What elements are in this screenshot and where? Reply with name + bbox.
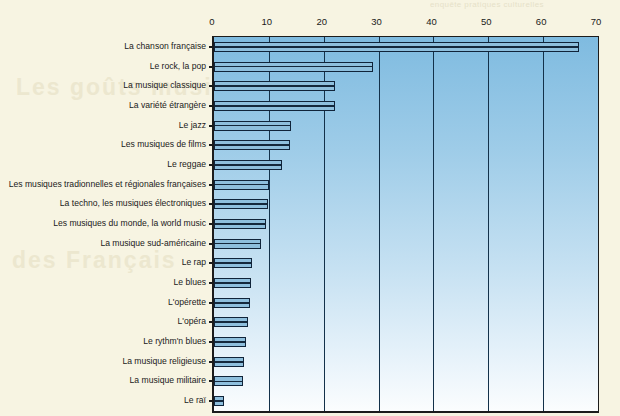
bar xyxy=(214,258,252,268)
category-axis-tick xyxy=(209,243,214,245)
bar xyxy=(214,199,268,209)
cropped-header-text: enquête pratiques culturelles xyxy=(430,0,610,9)
bar xyxy=(214,101,335,111)
category-axis-tick xyxy=(209,105,214,107)
category-label: Le rythm'n blues xyxy=(143,336,206,346)
bar xyxy=(214,376,243,386)
bar xyxy=(214,140,290,150)
category-axis-tick xyxy=(209,85,214,87)
x-axis-tick-label: 20 xyxy=(316,16,327,27)
category-label: La musique classique xyxy=(123,80,206,90)
bar xyxy=(214,357,244,367)
category-label: Le rock, la pop xyxy=(150,61,206,71)
bar xyxy=(214,81,335,91)
bar xyxy=(214,121,291,131)
bar xyxy=(214,219,266,229)
plot-area xyxy=(212,36,599,413)
bar xyxy=(214,278,251,288)
category-label: La musique sud-américaine xyxy=(100,238,206,248)
category-axis-tick xyxy=(209,262,214,264)
gridline xyxy=(488,37,489,411)
bar xyxy=(214,239,261,249)
gridline xyxy=(433,37,434,411)
category-axis-tick xyxy=(209,144,214,146)
bar xyxy=(214,396,224,406)
category-axis-tick xyxy=(209,223,214,225)
category-label: La musique religieuse xyxy=(122,356,206,366)
category-label: L'opéra xyxy=(178,316,206,326)
chart-page: enquête pratiques culturelles Les goûts … xyxy=(0,0,620,416)
bar xyxy=(214,298,250,308)
category-label: La musique militaire xyxy=(130,375,206,385)
category-label: Le jazz xyxy=(179,120,206,130)
category-axis-tick xyxy=(209,321,214,323)
category-label: Le blues xyxy=(174,277,207,287)
category-label: La techno, les musiques électroniques xyxy=(60,198,206,208)
category-label: Les musiques tradionnelles et régionales… xyxy=(9,179,206,189)
bar xyxy=(214,317,248,327)
category-axis-tick xyxy=(209,66,214,68)
category-label: Le raï xyxy=(184,395,206,405)
gridline xyxy=(324,37,325,411)
category-axis-tick xyxy=(209,341,214,343)
category-axis-tick xyxy=(209,125,214,127)
category-axis-tick xyxy=(209,184,214,186)
category-axis-tick xyxy=(209,203,214,205)
category-axis-tick xyxy=(209,380,214,382)
x-axis-tick-labels: 010203040506070 xyxy=(0,16,620,30)
category-label: Le rap xyxy=(182,257,206,267)
x-axis-tick-label: 30 xyxy=(371,16,382,27)
gridline xyxy=(269,37,270,411)
bar xyxy=(214,42,579,52)
watermark-text-line-2: des Français xyxy=(12,247,177,274)
category-axis-tick xyxy=(209,46,214,48)
category-label: La variété étrangère xyxy=(129,100,206,110)
category-axis-tick xyxy=(209,302,214,304)
category-label: La chanson française xyxy=(124,41,206,51)
gridline xyxy=(379,37,380,411)
category-axis-tick xyxy=(209,164,214,166)
x-axis-tick-label: 0 xyxy=(209,16,214,27)
x-axis-tick-label: 10 xyxy=(262,16,273,27)
bar xyxy=(214,337,246,347)
category-label: Les musiques de films xyxy=(121,139,206,149)
category-axis-tick xyxy=(209,400,214,402)
x-axis-tick-label: 40 xyxy=(426,16,437,27)
category-label: Le reggae xyxy=(167,159,206,169)
category-label: L'opérette xyxy=(168,297,206,307)
x-axis-tick-label: 70 xyxy=(591,16,602,27)
category-axis-tick xyxy=(209,361,214,363)
x-axis-tick-label: 60 xyxy=(536,16,547,27)
category-label: Les musiques du monde, la world music xyxy=(53,218,206,228)
bar xyxy=(214,180,269,190)
x-axis-tick-label: 50 xyxy=(481,16,492,27)
category-axis-tick xyxy=(209,282,214,284)
gridline xyxy=(543,37,544,411)
bar xyxy=(214,160,282,170)
bar xyxy=(214,62,373,72)
